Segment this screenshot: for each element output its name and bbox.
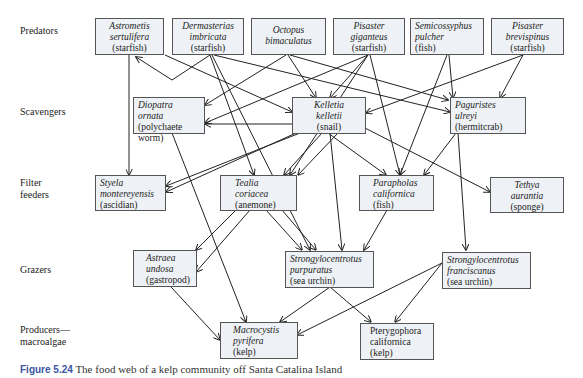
node-common-name: worm) xyxy=(138,133,200,144)
node-sci-name: undosa xyxy=(146,264,192,275)
node-sci-name: californica xyxy=(370,337,429,348)
node-tealia-coriacea: Tealia coriacea (anemone) xyxy=(220,175,297,211)
node-common-name: (sponge) xyxy=(495,202,559,213)
node-common-name: (fish) xyxy=(373,200,429,211)
node-pisaster-brevispinus: Pisaster brevispinus (starfish) xyxy=(491,18,564,55)
node-sci-name: pyrifera xyxy=(233,336,293,347)
node-common-name: (kelp) xyxy=(233,347,293,358)
node-common-name: (starfish) xyxy=(338,43,400,54)
node-sci-name: purpuratus xyxy=(290,265,369,276)
node-dermasterias-imbricata: Dermasterias imbricata (starfish) xyxy=(172,18,244,55)
node-octopus-bimaculatus: Octopus bimaculatus xyxy=(251,18,326,55)
node-common-name: (fish) xyxy=(415,43,479,54)
node-strongylocentrotus-franciscanus: Strongylocentrotus franciscanus (sea urc… xyxy=(442,252,531,289)
node-sci-name: coriacea xyxy=(235,189,292,200)
node-sci-name: franciscanus xyxy=(447,266,526,277)
node-sci-name: Pisaster xyxy=(496,21,559,32)
node-sci-name: kelletii xyxy=(297,111,361,122)
node-sci-name: imbricata xyxy=(177,32,239,43)
node-common-name: (anemone) xyxy=(235,200,292,211)
node-astraea-undosa: Astraea undosa (gastropod) xyxy=(133,250,197,287)
node-sci-name: Astrometis xyxy=(100,21,159,32)
node-sci-name: Macrocystis xyxy=(233,325,293,336)
node-sci-name: Strongylocentrotus xyxy=(290,254,369,265)
node-sci-name: Octopus xyxy=(256,25,321,36)
node-sci-name: californica xyxy=(373,189,429,200)
node-sci-name: Semicossyphus xyxy=(415,21,479,32)
node-common-name: (sea urchin) xyxy=(447,277,526,288)
node-common-name: (hermitcrab) xyxy=(455,122,521,133)
node-sci-name: giganteus xyxy=(338,32,400,43)
node-tethya-aurantia: Tethya aurantia (sponge) xyxy=(490,177,564,213)
node-common-name: (gastropod) xyxy=(146,275,192,286)
node-sci-name: Pisaster xyxy=(338,21,400,32)
node-sci-name: Dermasterias xyxy=(177,21,239,32)
node-astrometis-sertulifera: Astrometis sertulifera (starfish) xyxy=(95,18,164,55)
node-sci-name: Tealia xyxy=(235,178,292,189)
node-sci-name: bimaculatus xyxy=(256,36,321,47)
node-sci-name: Styela xyxy=(100,178,161,189)
node-sci-name: pulcher xyxy=(415,32,479,43)
node-sci-name: ulreyi xyxy=(455,111,521,122)
node-parapholas-californica: Parapholas californica (fish) xyxy=(359,175,434,211)
node-common-name: (polychaete xyxy=(138,122,200,133)
node-diopatra-ornata: Diopatra ornata (polychaete worm) xyxy=(133,97,205,134)
node-semicossyphus-pulcher: Semicossyphus pulcher (fish) xyxy=(410,18,484,55)
node-common-name: (starfish) xyxy=(496,43,559,54)
node-sci-name: montereyensis xyxy=(100,189,161,200)
node-sci-name: aurantia xyxy=(495,191,559,202)
figure-caption-text: The food web of a kelp community off San… xyxy=(75,363,342,375)
node-macrocystis-pyrifera: Macrocystis pyrifera (kelp) xyxy=(220,322,298,359)
node-sci-name: Tethya xyxy=(495,180,559,191)
node-common-name: (sea urchin) xyxy=(290,276,369,287)
node-sci-name: sertulifera xyxy=(100,32,159,43)
node-sci-name: Pterygophora xyxy=(370,326,429,337)
node-sci-name: Parapholas xyxy=(373,178,429,189)
node-sci-name: Strongylocentrotus xyxy=(447,255,526,266)
node-common-name: (kelp) xyxy=(370,348,429,359)
node-pisaster-giganteus: Pisaster giganteus (starfish) xyxy=(333,18,405,55)
node-paguristes-ulreyi: Paguristes ulreyi (hermitcrab) xyxy=(450,97,526,134)
node-kelletia-kelletii: Kelletia kelletii (snail) xyxy=(292,97,366,134)
node-common-name: (starfish) xyxy=(177,43,239,54)
node-styela-montereyensis: Styela montereyensis (ascidian) xyxy=(95,175,166,211)
node-sci-name: Astraea xyxy=(146,253,192,264)
node-sci-name: Paguristes xyxy=(455,100,521,111)
node-sci-name: brevispinus xyxy=(496,32,559,43)
node-strongylocentrotus-purpuratus: Strongylocentrotus purpuratus (sea urchi… xyxy=(285,251,374,288)
node-common-name: (ascidian) xyxy=(100,200,161,211)
node-common-name: (starfish) xyxy=(100,43,159,54)
figure-number: Figure 5.24 xyxy=(20,364,73,375)
node-sci-name: Kelletia xyxy=(297,100,361,111)
node-pterygophora-californica: Pterygophora californica (kelp) xyxy=(360,323,434,360)
figure-caption: Figure 5.24 The food web of a kelp commu… xyxy=(20,363,342,375)
node-sci-name: Diopatra ornata xyxy=(138,100,200,122)
node-common-name: (snail) xyxy=(297,122,361,133)
